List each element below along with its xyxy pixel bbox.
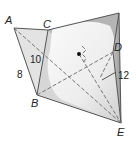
vertex-label-b: B	[31, 97, 38, 109]
measure-ab: 8	[17, 69, 23, 80]
measure-cb: 10	[30, 54, 42, 65]
vertex-label-c: C	[43, 18, 51, 30]
center-point	[77, 52, 81, 56]
vertex-label-d: D	[114, 41, 122, 53]
cone	[48, 22, 121, 123]
vertex-label-e: E	[117, 126, 125, 138]
geometry-diagram: A C D B E 8 10 12	[0, 0, 136, 142]
vertex-label-a: A	[4, 14, 12, 26]
measure-slant: 12	[118, 70, 130, 81]
